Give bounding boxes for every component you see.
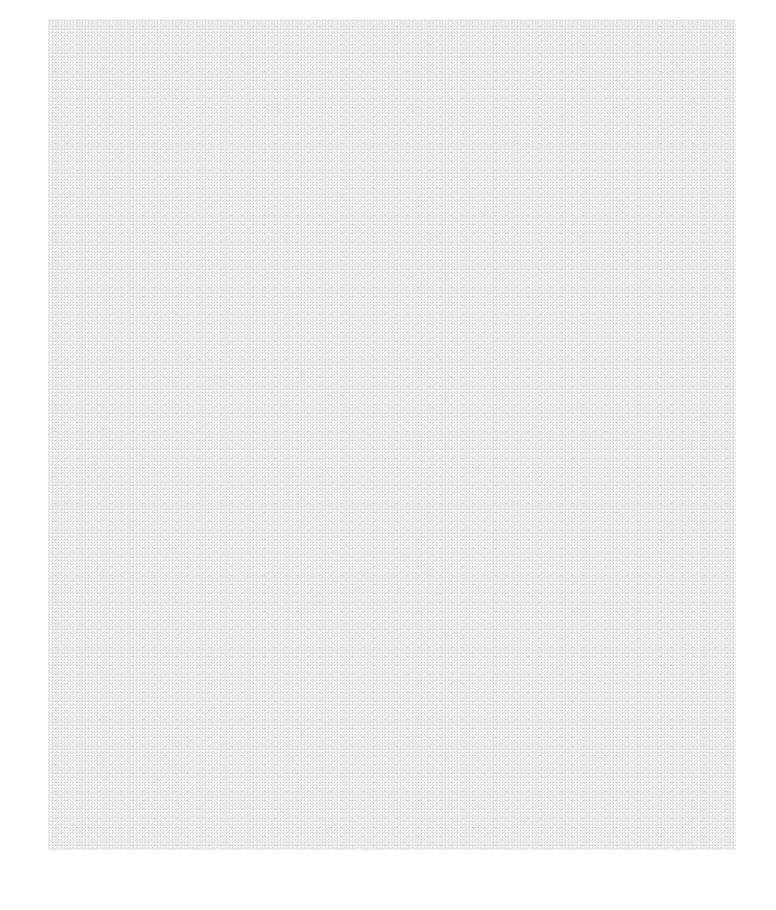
blank-paper-page xyxy=(48,19,736,850)
page-content xyxy=(48,19,736,850)
